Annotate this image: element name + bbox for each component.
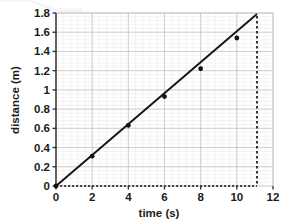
x-axis-title: time (s) <box>139 207 180 219</box>
data-point-marker <box>234 36 239 41</box>
y-tick-label: 0.8 <box>34 103 51 115</box>
x-tick-label: 0 <box>53 191 59 203</box>
data-point-marker <box>126 123 131 128</box>
y-tick-label: 0.2 <box>34 161 50 173</box>
x-tick-label: 4 <box>125 191 132 203</box>
data-point-marker <box>198 66 203 71</box>
y-axis-tick-labels: 00.20.40.60.811.21.41.61.8 <box>34 7 51 192</box>
y-tick-label: 1.8 <box>34 7 51 19</box>
data-point-marker <box>162 94 167 99</box>
x-tick-label: 6 <box>161 191 167 203</box>
y-axis-title: distance (m) <box>9 66 21 134</box>
data-point-marker <box>54 184 59 189</box>
distance-time-chart: 00.20.40.60.811.21.41.61.8 024681012 tim… <box>0 0 288 224</box>
y-tick-label: 0.4 <box>34 142 51 154</box>
data-point-marker <box>90 154 95 159</box>
x-tick-label: 2 <box>89 191 95 203</box>
x-tick-label: 12 <box>267 191 280 203</box>
y-tick-label: 0.6 <box>34 122 50 134</box>
y-tick-label: 0 <box>44 180 50 192</box>
y-tick-label: 1.6 <box>34 26 50 38</box>
x-tick-label: 8 <box>197 191 204 203</box>
x-axis-tick-labels: 024681012 <box>53 191 280 203</box>
y-tick-label: 1.2 <box>34 65 50 77</box>
y-tick-label: 1.4 <box>34 45 51 57</box>
x-tick-label: 10 <box>230 191 243 203</box>
y-tick-label: 1 <box>44 84 51 96</box>
chart-svg: 00.20.40.60.811.21.41.61.8 024681012 tim… <box>0 0 288 224</box>
